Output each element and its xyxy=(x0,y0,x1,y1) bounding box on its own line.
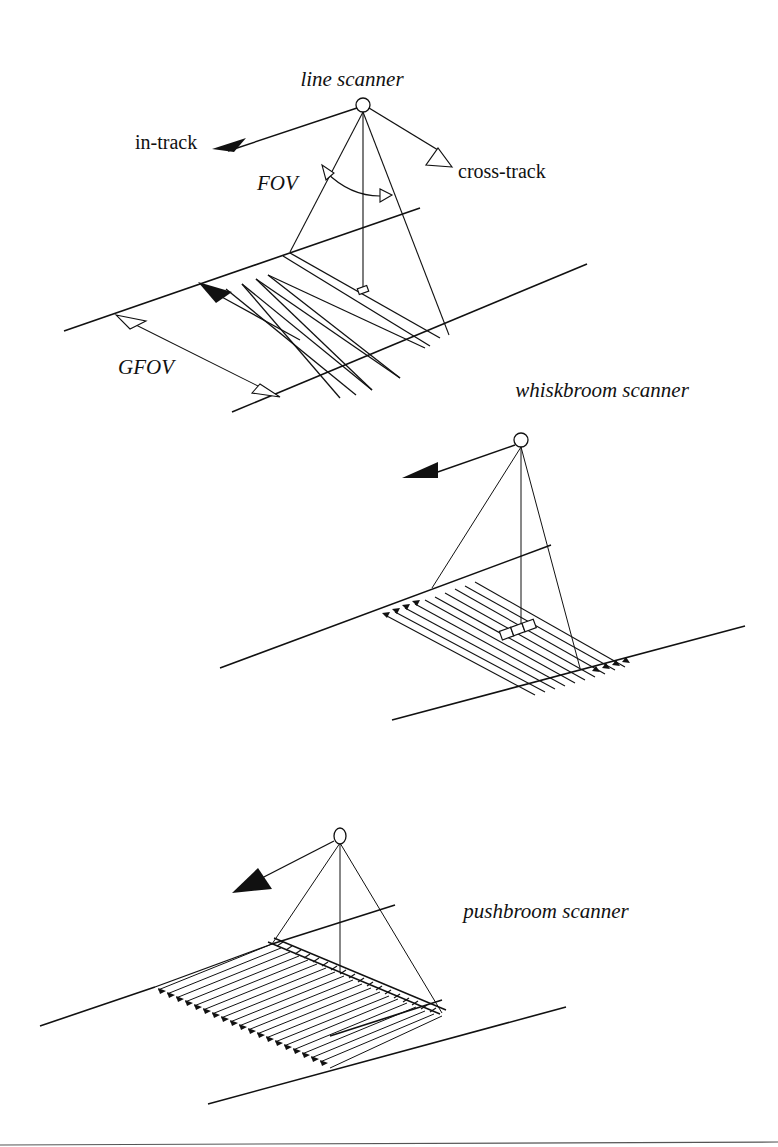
swath-edge-top xyxy=(155,944,272,987)
in-track-arrow xyxy=(402,445,515,478)
scan-direction-arrow xyxy=(198,282,300,340)
in-track-label: in-track xyxy=(135,131,197,153)
cross-track-arrow xyxy=(369,108,452,167)
ground-line-top-left xyxy=(40,987,155,1026)
scan-lines xyxy=(226,253,440,398)
pushbroom-scanner-title: pushbroom scanner xyxy=(461,899,629,923)
ifov-pixel xyxy=(357,285,368,294)
line-scanner-title: line scanner xyxy=(300,67,404,91)
scanner-diagram: line scanner xyxy=(0,0,778,1147)
line-scanner-panel: line scanner xyxy=(64,67,587,412)
gfov-label: GFOV xyxy=(118,355,176,379)
ground-line-bottom xyxy=(208,1007,566,1104)
satellite-icon xyxy=(334,828,346,844)
detector-array xyxy=(499,619,536,640)
pushbroom-scanner-panel: pushbroom scanner xyxy=(40,828,630,1104)
in-track-arrow xyxy=(232,841,334,893)
fov-label: FOV xyxy=(256,171,300,195)
fov-edge-left xyxy=(272,843,340,944)
satellite-icon xyxy=(356,98,370,112)
fov-edge-right xyxy=(521,447,580,668)
ground-line-bottom xyxy=(392,626,745,720)
fov-edge-left xyxy=(432,447,521,588)
ground-line-top-right xyxy=(272,905,395,944)
whiskbroom-scanner-panel: whiskbroom scanner xyxy=(220,378,745,720)
page-rule xyxy=(0,1142,778,1145)
in-track-arrow xyxy=(212,108,357,152)
cross-track-label: cross-track xyxy=(458,160,546,182)
scan-lines xyxy=(158,944,442,1068)
ground-line-top xyxy=(64,208,420,331)
whiskbroom-scanner-title: whiskbroom scanner xyxy=(515,378,689,402)
satellite-icon xyxy=(514,433,528,447)
